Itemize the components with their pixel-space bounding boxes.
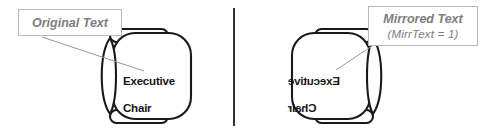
chair-label-mirrored-line1: Executive xyxy=(288,75,354,89)
chair-label-mirrored-line2: Chair xyxy=(288,102,354,116)
figure-canvas: Original Text Mirrored Text (MirrText = … xyxy=(0,0,483,133)
callout-mirrored-parameter: (MirrText = 1) xyxy=(369,27,477,42)
chair-label-original-line1: Executive xyxy=(123,75,175,89)
backrest-right-chair xyxy=(367,38,381,114)
callout-mirrored-label: Mirrored Text xyxy=(369,11,477,27)
chair-label-original: Executive Chair xyxy=(123,61,175,129)
chair-label-mirrored: Executive Chair xyxy=(288,61,354,129)
callout-original-text: Original Text xyxy=(18,9,122,36)
callout-mirrored-text: Mirrored Text (MirrText = 1) xyxy=(368,6,478,46)
callout-original-label: Original Text xyxy=(19,15,121,31)
backrest-left-chair xyxy=(102,38,116,114)
chair-label-original-line2: Chair xyxy=(123,102,175,116)
